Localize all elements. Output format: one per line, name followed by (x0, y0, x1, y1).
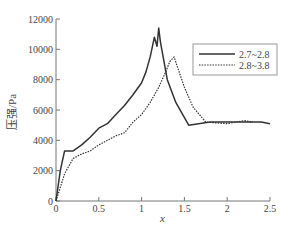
x-tick-label: 0.5 (93, 203, 106, 214)
series-line-2 (56, 57, 253, 201)
x-tick-label: 2 (225, 203, 230, 214)
legend: 2.7~2.82.8~3.8 (193, 44, 277, 75)
x-tick-label: 0 (54, 203, 59, 214)
y-tick-label: 4000 (33, 135, 53, 146)
y-tick-label: 0 (48, 196, 53, 207)
x-tick-label: 2.5 (264, 203, 277, 214)
legend-label-1: 2.7~2.8 (239, 49, 269, 60)
y-tick-label: 6000 (33, 105, 53, 116)
x-axis-label: x (159, 212, 165, 224)
x-tick-label: 1 (139, 203, 144, 214)
y-tick-label: 8000 (33, 74, 53, 85)
y-tick-label: 12000 (28, 14, 53, 25)
x-tick-label: 1.5 (178, 203, 191, 214)
pressure-line-chart: 02000400060008000100001200000.511.522.5 … (0, 0, 286, 232)
y-axis-label: 压强/Pa (6, 94, 18, 130)
y-tick-label: 2000 (33, 165, 53, 176)
legend-label-2: 2.8~3.8 (239, 60, 269, 71)
y-tick-label: 10000 (28, 44, 53, 55)
